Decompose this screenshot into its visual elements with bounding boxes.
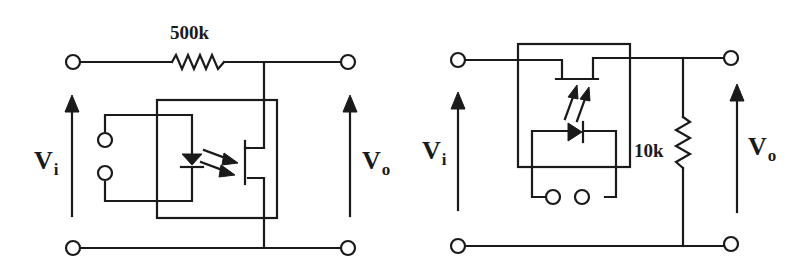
left-input-terminal-top bbox=[66, 55, 80, 69]
right-vo-label: Vo bbox=[748, 132, 776, 162]
left-vi-symbol: V bbox=[34, 146, 53, 175]
left-vo-arrowhead bbox=[343, 95, 357, 112]
left-circuit bbox=[65, 55, 357, 255]
left-light-arrowhead-1 bbox=[222, 153, 238, 165]
left-fet-source-wire bbox=[248, 178, 264, 248]
right-led-icon bbox=[568, 123, 582, 141]
left-vi-subscript: i bbox=[54, 160, 59, 179]
circuit-svg bbox=[0, 0, 808, 270]
left-vo-symbol: V bbox=[362, 146, 381, 175]
right-vi-arrowhead bbox=[451, 92, 465, 109]
right-vo-arrowhead bbox=[730, 84, 744, 101]
left-vi-label: Vi bbox=[34, 146, 59, 176]
left-led-icon bbox=[182, 154, 202, 165]
right-vo-symbol: V bbox=[748, 132, 767, 161]
right-optocoupler-package bbox=[518, 44, 630, 167]
left-led-anode-wire bbox=[105, 115, 192, 156]
right-led-wire-right bbox=[584, 131, 616, 197]
left-output-terminal-bottom bbox=[341, 241, 355, 255]
right-led-terminal-1 bbox=[546, 190, 560, 204]
right-light-arrowhead-2 bbox=[580, 87, 590, 101]
left-output-terminal-top bbox=[341, 55, 355, 69]
left-input-terminal-bottom bbox=[66, 241, 80, 255]
right-circuit bbox=[451, 44, 744, 253]
right-led-terminal-2 bbox=[575, 190, 589, 204]
right-input-terminal-bottom bbox=[451, 239, 465, 253]
right-fet-source-wire bbox=[593, 58, 725, 79]
right-light-arrowhead-1 bbox=[568, 85, 578, 99]
left-fet-drain-wire bbox=[248, 62, 264, 148]
right-light-arrow-2 bbox=[577, 99, 585, 121]
left-vo-label: Vo bbox=[362, 146, 390, 176]
left-vi-arrowhead bbox=[65, 95, 79, 112]
right-resistor-label: 10k bbox=[634, 140, 664, 162]
left-light-arrowhead-2 bbox=[219, 165, 235, 177]
left-led-cathode-wire bbox=[105, 168, 192, 201]
right-light-arrow-1 bbox=[565, 97, 573, 119]
left-led-terminal-2 bbox=[98, 166, 112, 180]
left-resistor-label: 500k bbox=[170, 22, 209, 44]
right-vo-subscript: o bbox=[768, 146, 777, 165]
right-input-terminal-top bbox=[451, 53, 465, 67]
circuit-diagrams: 500k Vi Vo 10k Vi Vo bbox=[0, 0, 808, 270]
right-output-terminal-bottom bbox=[724, 237, 738, 251]
right-output-terminal-top bbox=[724, 51, 738, 65]
left-resistor-500k bbox=[172, 55, 224, 69]
right-vi-subscript: i bbox=[442, 150, 447, 169]
right-led-wire-left bbox=[532, 131, 571, 197]
right-vi-symbol: V bbox=[422, 136, 441, 165]
left-vo-subscript: o bbox=[382, 160, 391, 179]
right-fet-drain-wire bbox=[464, 60, 562, 79]
left-led-terminal-1 bbox=[98, 133, 112, 147]
right-vi-label: Vi bbox=[422, 136, 447, 166]
right-resistor-10k bbox=[676, 117, 690, 168]
